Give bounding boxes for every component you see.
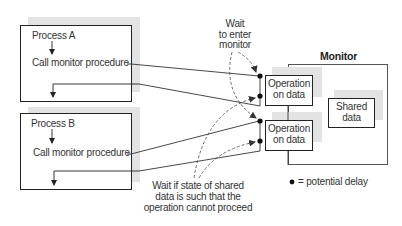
- wait-enter-line1: Wait: [207, 19, 263, 30]
- call-lines: [131, 64, 288, 171]
- delay-dot-3: [257, 118, 262, 123]
- process-a-flow: [52, 41, 139, 97]
- delay-dot-1: [257, 73, 262, 78]
- wait-state-line1: Wait if state of shared: [136, 180, 260, 191]
- monitor-diagram: Process A Call monitor procedure Process…: [0, 0, 402, 226]
- wait-enter-annotation: Wait to enter monitor: [207, 19, 263, 51]
- wait-enter-line3: monitor: [207, 40, 263, 51]
- wait-state-line2: data is such that the: [136, 191, 260, 202]
- wait-state-annotation: Wait if state of shared data is such tha…: [136, 180, 260, 213]
- wait-state-line3: operation cannot proceed: [136, 202, 260, 213]
- legend-dot-icon: [290, 180, 295, 185]
- delay-dot-2: [257, 93, 262, 98]
- legend-text: = potential delay: [298, 176, 368, 187]
- delay-dot-4: [257, 138, 262, 143]
- process-b-flow: [52, 129, 139, 185]
